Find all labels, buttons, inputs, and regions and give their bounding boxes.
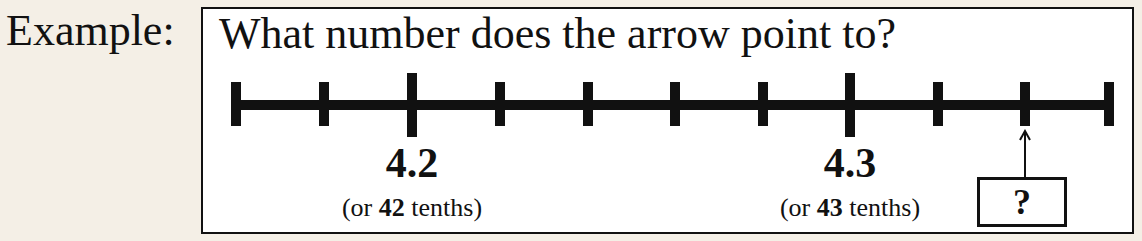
label-4-3: 4.3 [824,141,877,185]
tick-8 [933,82,943,126]
tick-4 [583,82,593,126]
question-text: What number does the arrow point to? [219,9,896,59]
tick-10 [1104,82,1114,126]
label-4-2-tenths: (or 42 tenths) [342,193,482,223]
tick-2 [407,73,417,137]
tick-5 [670,82,680,126]
example-box: What number does the arrow point to? 4.2… [201,7,1134,234]
label-4-3-tenths: (or 43 tenths) [780,193,920,223]
label-4-2: 4.2 [386,141,439,185]
up-arrow-icon [1019,129,1031,179]
tick-9 [1020,82,1030,126]
tick-7 [845,73,855,137]
tick-0 [231,82,241,126]
example-label: Example: [6,6,175,56]
tick-1 [319,82,329,126]
tick-3 [495,82,505,126]
tick-6 [758,82,768,126]
answer-box: ? [977,177,1067,227]
